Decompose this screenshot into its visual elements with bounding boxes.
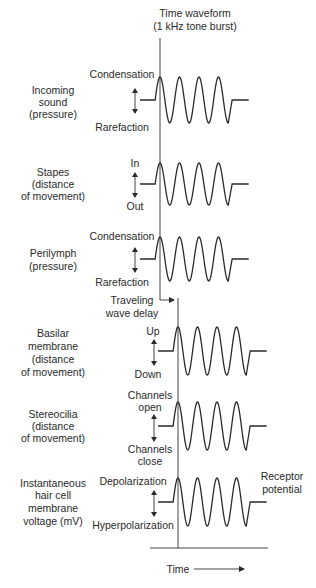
- bottom-polarity-label: Rarefaction: [95, 276, 149, 288]
- double-arrow-icon: [132, 88, 138, 114]
- row-label-line: of movement): [21, 432, 85, 444]
- row-perilymph: Perilymph (pressure) Condensation Rarefa…: [29, 230, 249, 288]
- bottom-polarity-label: Out: [127, 200, 144, 212]
- row-label-line: (distance: [32, 178, 75, 190]
- row-stapes: Stapes (distance of movement) In Out: [21, 157, 249, 212]
- row-label-line: (pressure): [29, 108, 77, 120]
- svg-text:Traveling: Traveling: [111, 294, 154, 306]
- time-label: Time: [167, 563, 190, 575]
- bottom-polarity-label: Hyperpolarization: [92, 519, 174, 531]
- row-basilar-membrane: Basilar membrane (distance of movement) …: [21, 325, 267, 380]
- waveform: [158, 478, 267, 526]
- time-axis-label: Time: [167, 563, 244, 575]
- title-line-2: (1 kHz tone burst): [153, 20, 236, 32]
- row-label-line: hair cell: [35, 489, 71, 501]
- double-arrow-icon: [132, 247, 138, 273]
- row-label-line: membrane: [28, 340, 78, 352]
- traveling-wave-delay-label: Traveling wave delay: [105, 294, 159, 319]
- top-polarity-label: Depolarization: [99, 475, 166, 487]
- waveform: [140, 77, 249, 123]
- row-label-line: Incoming: [32, 84, 75, 96]
- row-incoming-sound: Incoming sound (pressure) Condensation R…: [29, 68, 249, 133]
- row-label-line: Stereocilia: [28, 408, 77, 420]
- double-arrow-icon: [151, 339, 157, 366]
- row-label-line: of movement): [21, 190, 85, 202]
- bottom-polarity-label-line: close: [138, 455, 163, 467]
- row-label-line: membrane: [28, 502, 78, 514]
- diagram-title: Time waveform (1 kHz tone burst): [153, 7, 236, 32]
- row-label-line: Basilar: [37, 327, 70, 339]
- row-label-line: of movement): [21, 366, 85, 378]
- bottom-polarity-label: Down: [135, 368, 162, 380]
- double-arrow-icon: [132, 172, 138, 198]
- row-label-line: Instantaneous: [20, 477, 86, 489]
- double-arrow-icon: [151, 414, 157, 442]
- row-label-line: sound: [39, 96, 68, 108]
- top-polarity-label: Up: [146, 325, 160, 337]
- row-label-line: (distance: [32, 420, 75, 432]
- top-polarity-label-line: Channels: [128, 389, 172, 401]
- row-hair-cell-voltage: Instantaneous hair cell membrane voltage…: [20, 470, 304, 531]
- svg-text:wave delay: wave delay: [105, 307, 159, 319]
- row-label-line: voltage (mV): [23, 515, 83, 527]
- double-arrow-icon: [151, 490, 157, 517]
- right-annotation-line: potential: [262, 483, 302, 495]
- bottom-polarity-label: Rarefaction: [95, 121, 149, 133]
- top-polarity-label-line: open: [138, 401, 162, 413]
- row-label-line: Perilymph: [30, 247, 77, 259]
- waveform: [140, 163, 249, 205]
- row-stereocilia: Stereocilia (distance of movement) Chann…: [21, 389, 267, 467]
- waveform: [158, 402, 267, 450]
- waveform: [140, 237, 249, 281]
- right-annotation-line: Receptor: [261, 470, 304, 482]
- row-label-line: Stapes: [37, 166, 70, 178]
- waveform: [158, 327, 267, 375]
- title-line-1: Time waveform: [159, 7, 231, 19]
- row-label-line: (pressure): [29, 260, 77, 272]
- row-label-line: (distance: [32, 353, 75, 365]
- bottom-polarity-label-line: Channels: [128, 443, 172, 455]
- top-polarity-label: In: [131, 157, 140, 169]
- top-polarity-label: Condensation: [90, 230, 155, 242]
- diagram-canvas: Time waveform (1 kHz tone burst) Incomin…: [0, 0, 316, 588]
- top-polarity-label: Condensation: [90, 68, 155, 80]
